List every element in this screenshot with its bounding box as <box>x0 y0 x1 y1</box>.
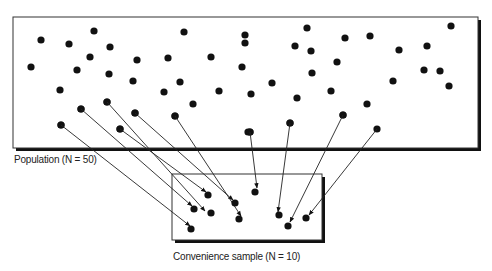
population-dot <box>27 63 34 70</box>
population-dot <box>333 58 340 65</box>
population-dot <box>164 54 171 61</box>
sample-dot <box>284 222 291 229</box>
population-dot <box>389 77 396 84</box>
sample-dot <box>235 215 242 222</box>
population-dot <box>238 63 245 70</box>
population-dot <box>303 24 310 31</box>
population-dot <box>105 70 112 77</box>
population-dot <box>366 32 373 39</box>
sample-dot <box>275 211 282 218</box>
population-label: Population (N = 50) <box>14 154 97 165</box>
population-dot <box>37 36 44 43</box>
population-dot <box>247 90 254 97</box>
population-dot <box>56 86 63 93</box>
convenience-sampling-diagram <box>0 0 492 271</box>
population-dot <box>106 43 113 50</box>
sample-dot <box>190 205 197 212</box>
population-dot <box>291 42 298 49</box>
population-dot <box>268 79 275 86</box>
population-dot <box>241 39 248 46</box>
population-dot <box>160 88 167 95</box>
population-dot <box>73 66 80 73</box>
population-dot <box>423 42 430 49</box>
sample-dot <box>251 188 258 195</box>
sample-dot <box>207 209 214 216</box>
population-dot <box>215 87 222 94</box>
population-dot <box>363 100 370 107</box>
sample-dot <box>204 191 211 198</box>
sample-label: Convenience sample (N = 10) <box>173 251 300 262</box>
population-dot <box>307 47 314 54</box>
population-dot <box>341 34 348 41</box>
population-dot <box>65 40 72 47</box>
population-dot <box>436 67 443 74</box>
population-dot <box>90 27 97 34</box>
population-dot <box>133 56 140 63</box>
sample-dot <box>231 199 238 206</box>
population-dot <box>445 82 452 89</box>
population-dot <box>293 94 300 101</box>
sample-dot <box>187 225 194 232</box>
population-dot <box>447 22 454 29</box>
population-dot <box>420 66 427 73</box>
population-dot <box>176 78 183 85</box>
population-dot <box>327 87 334 94</box>
population-dot <box>308 69 315 76</box>
population-dot <box>180 28 187 35</box>
sample-dot <box>302 214 309 221</box>
population-dot <box>86 53 93 60</box>
population-dot <box>241 31 248 38</box>
population-dot <box>129 77 136 84</box>
population-dot <box>189 100 196 107</box>
population-dot <box>207 53 214 60</box>
population-dot <box>395 46 402 53</box>
